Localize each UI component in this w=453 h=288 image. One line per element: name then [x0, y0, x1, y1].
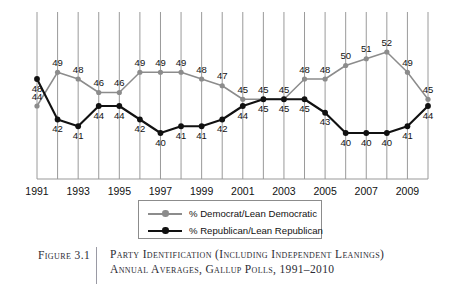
line-chart-svg: 4449484646494949484745454548485051524945…: [0, 0, 453, 195]
data-point: [34, 76, 40, 82]
legend-label-democrat: % Democrat/Lean Democratic: [189, 208, 317, 219]
data-value-label: 44: [238, 110, 249, 121]
x-axis-tick-label: 2009: [396, 185, 420, 195]
figure-caption-text: Party Identification (Including Independ…: [110, 247, 410, 277]
data-point: [260, 96, 266, 102]
data-value-label: 51: [361, 43, 372, 54]
data-point: [55, 117, 61, 123]
data-value-label: 49: [176, 57, 187, 68]
data-value-label: 49: [135, 57, 146, 68]
data-value-label: 40: [361, 137, 372, 148]
data-point: [343, 130, 349, 136]
data-value-label: 52: [382, 37, 393, 48]
data-value-label: 40: [340, 137, 351, 148]
chart-legend: % Democrat/Lean Democratic % Republican/…: [138, 200, 322, 239]
data-point: [117, 90, 122, 95]
data-point: [322, 110, 328, 116]
data-point: [178, 70, 183, 75]
data-value-label: 45: [238, 84, 249, 95]
x-axis-tick-label: 1993: [66, 185, 90, 195]
data-point: [158, 130, 164, 136]
legend-marker-democrat-icon: [148, 208, 182, 219]
data-value-label: 44: [114, 110, 125, 121]
caption-divider: [96, 247, 97, 284]
data-value-label: 48: [299, 64, 310, 75]
legend-label-republican: % Republican/Lean Republican: [189, 225, 323, 236]
data-point: [425, 97, 430, 102]
data-point: [425, 103, 431, 109]
chart-plot-area: 4449484646494949484745454548485051524945…: [0, 0, 453, 195]
data-point: [220, 83, 225, 88]
data-value-label: 41: [402, 130, 413, 141]
data-value-label: 40: [382, 137, 393, 148]
x-axis-tick-label: 1995: [108, 185, 132, 195]
data-value-label: 45: [423, 84, 434, 95]
x-axis-tick-label: 2007: [355, 185, 379, 195]
data-point: [384, 49, 389, 54]
gridlines-group: [37, 12, 428, 179]
data-point: [158, 70, 163, 75]
data-point: [34, 103, 39, 108]
data-value-label: 47: [217, 70, 228, 81]
x-axis-tick-label: 1999: [190, 185, 214, 195]
data-value-label: 48: [32, 83, 43, 94]
data-value-label: 49: [402, 57, 413, 68]
data-point: [199, 123, 205, 129]
data-point: [137, 117, 143, 123]
data-point: [384, 130, 390, 136]
data-value-label: 48: [73, 64, 84, 75]
data-value-label: 41: [196, 130, 207, 141]
data-value-label: 41: [73, 130, 84, 141]
data-point: [281, 96, 287, 102]
figure-container: 4449484646494949484745454548485051524945…: [0, 0, 453, 288]
data-point: [116, 103, 122, 109]
x-axis-tick-label: 1997: [149, 185, 173, 195]
legend-item-republican: % Republican/Lean Republican: [139, 222, 321, 239]
figure-number-label: Figure 3.1: [0, 247, 96, 261]
data-value-label: 49: [155, 57, 166, 68]
data-value-label: 42: [52, 123, 63, 134]
data-point: [302, 76, 307, 81]
data-value-label: 48: [320, 64, 331, 75]
data-point: [363, 130, 369, 136]
legend-item-democrat: % Democrat/Lean Democratic: [139, 205, 321, 222]
data-point: [343, 63, 348, 68]
data-value-label: 46: [114, 77, 125, 88]
data-point: [405, 70, 410, 75]
x-axis-tick-label: 2001: [231, 185, 255, 195]
data-point: [240, 97, 245, 102]
data-value-label: 45: [258, 84, 269, 95]
x-axis-tick-label: 2003: [272, 185, 296, 195]
data-point: [199, 76, 204, 81]
series-lines-group: [37, 52, 428, 133]
data-value-label: 41: [176, 130, 187, 141]
data-value-label: 45: [258, 103, 269, 114]
data-value-label: 50: [340, 50, 351, 61]
data-point: [240, 103, 246, 109]
legend-marker-republican-icon: [148, 225, 182, 236]
data-value-label: 45: [279, 84, 290, 95]
data-value-label: 44: [423, 110, 434, 121]
data-value-label: 43: [320, 116, 331, 127]
data-point: [55, 70, 60, 75]
data-point: [96, 103, 102, 109]
data-point: [96, 90, 101, 95]
data-point: [405, 123, 411, 129]
data-point: [75, 123, 81, 129]
data-value-label: 42: [217, 123, 228, 134]
x-axis-tick-label: 1991: [25, 185, 49, 195]
data-point: [364, 56, 369, 61]
data-value-label: 44: [93, 110, 104, 121]
x-axis-tick-label: 2005: [313, 185, 337, 195]
data-point: [323, 76, 328, 81]
data-point: [137, 70, 142, 75]
data-value-label: 45: [279, 103, 290, 114]
data-value-label: 46: [93, 77, 104, 88]
data-value-label: 45: [299, 103, 310, 114]
data-point: [302, 96, 308, 102]
data-value-label: 49: [52, 57, 63, 68]
x-axis-tick-labels-group: 1991199319951997199920012003200520072009: [25, 185, 419, 195]
data-point: [178, 123, 184, 129]
data-value-label: 40: [155, 137, 166, 148]
data-point: [219, 117, 225, 123]
